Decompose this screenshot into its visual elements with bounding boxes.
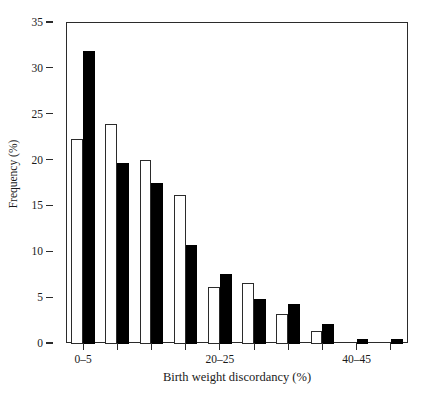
y-axis-title: Frequency (%) xyxy=(7,99,19,249)
y-tick-mark xyxy=(46,205,53,206)
y-tick-label: 15 xyxy=(32,196,44,214)
bar-filled xyxy=(220,274,232,344)
plot-frame xyxy=(66,22,408,343)
bar-open xyxy=(242,283,254,344)
x-tick-mark xyxy=(356,343,357,350)
bar-group xyxy=(170,23,204,344)
bar-open xyxy=(208,287,220,344)
x-tick-mark xyxy=(83,343,84,350)
x-tick-mark xyxy=(185,343,186,350)
x-tick-mark xyxy=(322,343,323,350)
bar-filled xyxy=(186,245,198,344)
bar-filled xyxy=(254,299,266,344)
y-tick-mark xyxy=(46,159,53,160)
bar-group xyxy=(306,23,340,344)
bar-open xyxy=(174,195,186,344)
x-axis-title: Birth weight discordancy (%) xyxy=(66,370,408,385)
y-tick-label: 0 xyxy=(37,334,43,352)
y-tick-mark xyxy=(46,67,53,68)
bar-open xyxy=(276,314,288,344)
x-tick-mark xyxy=(288,343,289,350)
y-tick-mark xyxy=(46,251,53,252)
y-tick-label: 35 xyxy=(32,13,44,31)
y-tick-label: 10 xyxy=(32,242,44,260)
y-tick-mark xyxy=(46,21,53,22)
bar-open xyxy=(140,160,152,344)
y-tick-mark xyxy=(46,113,53,114)
bar-filled xyxy=(151,183,163,344)
bar-group xyxy=(204,23,238,344)
figure-container: 05101520253035 Frequency (%) 0–520–2540–… xyxy=(0,0,427,401)
bar-group xyxy=(135,23,169,344)
bar-open xyxy=(71,139,83,344)
bar-group xyxy=(272,23,306,344)
y-tick-mark xyxy=(46,342,53,343)
bar-group xyxy=(375,23,409,344)
x-tick-label: 40–45 xyxy=(325,353,389,365)
x-tick-mark xyxy=(117,343,118,350)
bar-filled xyxy=(117,163,129,344)
x-tick-label: 0–5 xyxy=(51,353,115,365)
y-tick-label: 20 xyxy=(32,151,44,169)
x-tick-label: 20–25 xyxy=(188,353,252,365)
x-tick-mark xyxy=(219,343,220,350)
bar-group xyxy=(341,23,375,344)
y-tick-label: 25 xyxy=(32,105,44,123)
x-tick-mark xyxy=(151,343,152,350)
y-tick-label: 5 xyxy=(37,288,43,306)
bar-group xyxy=(67,23,101,344)
x-tick-mark xyxy=(254,343,255,350)
bar-series-container xyxy=(67,23,409,344)
bar-filled xyxy=(83,51,95,344)
y-tick-mark xyxy=(46,297,53,298)
bar-open xyxy=(105,124,117,344)
x-tick-mark xyxy=(390,343,391,350)
y-tick-label: 30 xyxy=(32,59,44,77)
bar-group xyxy=(238,23,272,344)
bar-filled xyxy=(288,304,300,344)
bar-group xyxy=(101,23,135,344)
bar-filled xyxy=(322,324,334,344)
